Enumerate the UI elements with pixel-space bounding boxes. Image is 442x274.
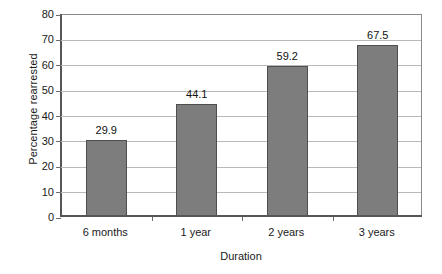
x-axis-category-label: 1 year: [151, 226, 241, 239]
y-axis-tick-label: 0: [34, 211, 54, 223]
y-axis-tick-mark: [56, 116, 61, 117]
x-axis-title: Duration: [60, 250, 422, 263]
x-axis-tick-mark: [152, 216, 153, 221]
plot-area: 29.944.159.267.5: [60, 14, 422, 217]
bar: [86, 140, 127, 216]
y-axis-tick-label: 40: [34, 110, 54, 122]
y-axis-tick-label: 10: [34, 186, 54, 198]
x-axis-category-label: 3 years: [332, 226, 422, 239]
y-axis-tick-mark: [56, 40, 61, 41]
bar-chart: Percentage rearrested 01020304050607080 …: [0, 0, 442, 274]
x-axis-tick-mark: [333, 216, 334, 221]
bar-value-label: 44.1: [167, 88, 227, 100]
x-axis-category-label: 6 months: [60, 226, 150, 239]
y-axis-tick-label: 80: [34, 8, 54, 20]
y-axis-tick-mark: [56, 65, 61, 66]
bar: [357, 45, 398, 216]
y-axis-tick-mark: [56, 218, 61, 219]
y-axis-tick-label: 50: [34, 84, 54, 96]
bar-value-label: 29.9: [76, 124, 136, 136]
y-axis-tick-label: 70: [34, 33, 54, 45]
bar-value-label: 67.5: [348, 29, 408, 41]
y-axis-tick-mark: [56, 192, 61, 193]
y-axis-tick-labels: 01020304050607080: [34, 8, 54, 224]
y-axis-tick-label: 20: [34, 160, 54, 172]
x-axis-tick-mark: [242, 216, 243, 221]
y-axis-tick-label: 60: [34, 59, 54, 71]
y-axis-tick-mark: [56, 15, 61, 16]
x-axis-category-label: 2 years: [241, 226, 331, 239]
y-axis-tick-mark: [56, 167, 61, 168]
bar-value-label: 59.2: [257, 50, 317, 62]
y-axis-tick-mark: [56, 141, 61, 142]
bar: [267, 66, 308, 216]
y-axis-tick-label: 30: [34, 135, 54, 147]
y-axis-tick-mark: [56, 91, 61, 92]
bar: [176, 104, 217, 216]
